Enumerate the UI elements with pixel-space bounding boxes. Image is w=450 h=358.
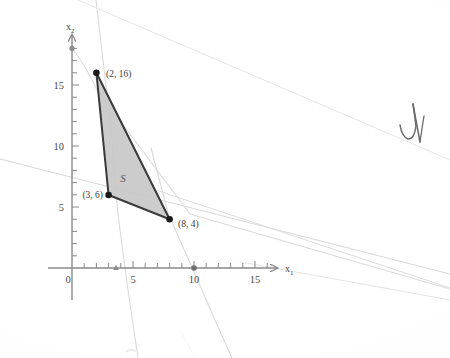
y-axis-ticks <box>72 48 79 255</box>
x-axis-label: x1 <box>285 263 294 277</box>
feasible-region-chart: S (2, 16) (3, 6) (8, 4) 0 5 10 15 5 10 1… <box>0 0 450 358</box>
y-tick-label-10: 10 <box>54 141 65 152</box>
vertex-point-3-6 <box>105 192 112 199</box>
bottom-artifact-line <box>180 330 195 358</box>
scanned-page-background: S (2, 16) (3, 6) (8, 4) 0 5 10 15 5 10 1… <box>0 0 450 358</box>
y-tick-label-15: 15 <box>54 80 65 91</box>
faint-line-c <box>151 148 232 358</box>
vertex-label-3-6: (3, 6) <box>82 190 103 201</box>
region-label-s: S <box>120 172 126 184</box>
x-intercept-dot-10 <box>191 265 197 271</box>
y-intercept-dot <box>69 46 74 51</box>
vertex-point-2-16 <box>93 70 100 77</box>
axes <box>48 34 278 300</box>
faint-constraint-lines <box>0 0 450 358</box>
faint-line-e <box>78 0 450 160</box>
y-tick-label-5: 5 <box>59 202 64 213</box>
y-axis-label: x2 <box>66 21 75 35</box>
x-tick-label-15: 15 <box>250 274 261 285</box>
y-axis-label-subscript: 2 <box>71 27 75 35</box>
vertex-label-8-4: (8, 4) <box>178 219 199 230</box>
x-tick-label-10: 10 <box>189 274 200 285</box>
faint-line-a <box>0 159 450 274</box>
x-tick-label-0: 0 <box>65 274 70 285</box>
vertex-point-8-4 <box>166 216 173 223</box>
handwritten-stroke-3 <box>420 116 424 142</box>
vertex-label-2-16: (2, 16) <box>106 69 131 80</box>
bottom-artifact-stroke <box>126 350 136 352</box>
handwritten-check-mark <box>400 104 424 142</box>
x-tick-label-5: 5 <box>130 274 135 285</box>
handwritten-stroke-2 <box>413 104 420 142</box>
x-axis-label-subscript: 1 <box>290 269 294 277</box>
